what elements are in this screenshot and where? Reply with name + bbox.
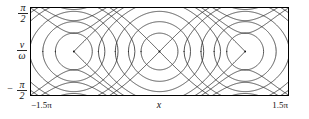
phase-portrait-svg: π 2 v ω − π 2 −1.5π 1.5π x [0,0,309,119]
y-axis-label-numerator: v [20,39,25,50]
y-tick-top-label: π 2 [18,2,28,24]
y-tick-bottom-numerator: π [19,79,25,90]
y-axis-label: v ω [17,39,27,61]
x-axis-label: x [156,99,162,110]
center-point-2 [159,51,161,53]
y-tick-top-numerator: π [20,2,26,13]
y-tick-top-denominator: 2 [21,13,26,24]
y-tick-bottom-sign: − [7,83,13,94]
y-axis-label-denominator: ω [18,50,25,61]
center-point-3 [244,51,246,53]
y-tick-bottom-label: − π 2 [7,79,27,101]
center-point-1 [73,51,75,53]
x-tick-left-label: −1.5π [31,100,52,110]
phase-portrait-figure: π 2 v ω − π 2 −1.5π 1.5π x [0,0,309,119]
x-tick-right-label: 1.5π [272,100,288,110]
y-tick-bottom-denominator: 2 [20,90,25,101]
